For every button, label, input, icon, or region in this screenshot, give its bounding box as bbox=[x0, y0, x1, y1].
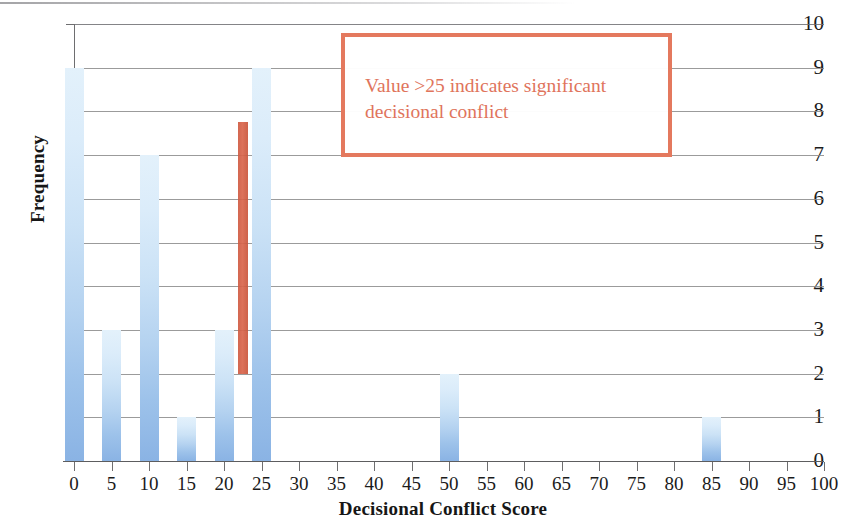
annotation-line-1: Value >25 indicates significant bbox=[365, 75, 606, 96]
x-tick-mark bbox=[337, 462, 338, 471]
x-tick-label: 100 bbox=[801, 474, 843, 493]
gridline bbox=[74, 243, 824, 244]
x-axis-title: Decisional Conflict Score bbox=[0, 498, 824, 520]
x-tick-mark bbox=[74, 462, 75, 471]
gridline bbox=[74, 330, 824, 331]
x-tick-mark bbox=[487, 462, 488, 471]
annotation-line-2: decisional conflict bbox=[365, 101, 509, 122]
x-tick-mark bbox=[299, 462, 300, 471]
bar bbox=[102, 330, 121, 461]
x-tick-mark bbox=[637, 462, 638, 471]
x-tick-mark bbox=[262, 462, 263, 471]
x-tick-mark bbox=[412, 462, 413, 471]
threshold-marker-bar bbox=[238, 122, 248, 373]
bar bbox=[440, 374, 459, 461]
x-tick-mark bbox=[374, 462, 375, 471]
bar bbox=[702, 417, 721, 461]
y-axis-title: Frequency bbox=[27, 135, 49, 223]
x-tick-mark bbox=[112, 462, 113, 471]
gridline bbox=[74, 286, 824, 287]
x-tick-mark bbox=[712, 462, 713, 471]
x-tick-mark bbox=[599, 462, 600, 471]
x-tick-mark bbox=[562, 462, 563, 471]
x-tick-mark bbox=[449, 462, 450, 471]
gridline bbox=[74, 199, 824, 200]
x-tick-mark bbox=[749, 462, 750, 471]
x-tick-mark bbox=[824, 462, 825, 471]
x-tick-mark bbox=[787, 462, 788, 471]
x-tick-mark bbox=[674, 462, 675, 471]
x-tick-mark bbox=[224, 462, 225, 471]
bar bbox=[65, 68, 84, 461]
bar bbox=[177, 417, 196, 461]
annotation-callout-box: Value >25 indicates significant decision… bbox=[341, 33, 672, 157]
annotation-callout-text: Value >25 indicates significant decision… bbox=[365, 73, 661, 125]
gridline bbox=[74, 24, 824, 25]
bar bbox=[215, 330, 234, 461]
x-axis-line bbox=[63, 461, 824, 462]
bar bbox=[252, 68, 271, 461]
x-tick-mark bbox=[149, 462, 150, 471]
bar bbox=[140, 155, 159, 461]
x-tick-mark bbox=[524, 462, 525, 471]
x-tick-mark bbox=[187, 462, 188, 471]
